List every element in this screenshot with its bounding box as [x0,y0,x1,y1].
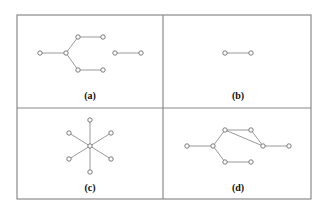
panel-d-label: (d) [232,182,244,194]
graph-node [223,160,227,164]
graph-edge [69,146,90,159]
panel-d-edges [187,130,289,162]
outer-border [17,15,311,199]
graph-node [88,170,92,174]
graph-edge [90,146,111,159]
panel-b: (b) [223,51,253,102]
graph-edge [66,37,78,53]
panel-a-label: (a) [84,90,96,102]
graph-node [101,68,105,72]
graph-node [261,144,265,148]
graph-edge [66,53,78,70]
graph-node [67,131,71,135]
graph-node [101,35,105,39]
graph-node [38,51,42,55]
graph-node [185,144,189,148]
panel-c: (c) [67,118,113,194]
graph-edge [69,133,90,146]
graph-node [139,51,143,55]
panel-c-label: (c) [84,182,95,194]
graph-node [249,128,253,132]
graph-node [249,51,253,55]
panel-a-edges [40,37,141,70]
graph-edge [213,130,225,146]
graph-node [76,68,80,72]
graph-node [223,51,227,55]
graph-edge [213,146,225,162]
graph-figure: (a) (b) (c) (d) [0,0,325,210]
panel-grid-frame [17,15,311,199]
graph-node [76,35,80,39]
graph-node [67,157,71,161]
graph-node [88,118,92,122]
graph-node [113,51,117,55]
graph-node [223,128,227,132]
graph-edge [90,133,111,146]
graph-node [287,144,291,148]
panel-d: (d) [185,128,291,194]
graph-node [109,157,113,161]
graph-node [109,131,113,135]
graph-node [249,160,253,164]
graph-node [211,144,215,148]
graph-node [88,144,92,148]
panel-a: (a) [38,35,143,102]
panel-a-nodes [38,35,143,72]
graph-node [64,51,68,55]
panel-b-label: (b) [232,90,244,102]
